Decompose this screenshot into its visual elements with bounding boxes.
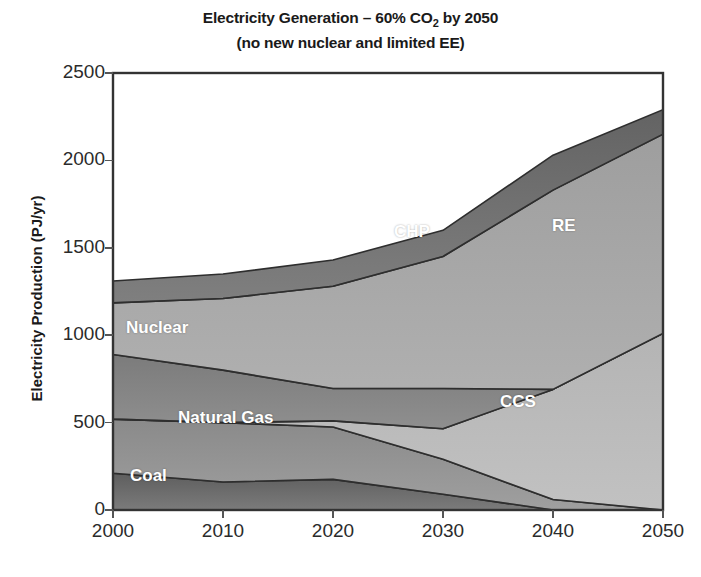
x-tick-label: 2000 <box>68 520 158 542</box>
x-tick-mark <box>332 510 334 518</box>
area-label-chp: CHP <box>394 222 430 242</box>
x-tick-mark <box>552 510 554 518</box>
y-tick-label: 2500 <box>49 61 105 83</box>
y-tick-label: 1500 <box>49 236 105 258</box>
area-label-ccs: CCS <box>500 392 536 412</box>
y-tick-mark <box>105 72 113 74</box>
y-tick-label: 1000 <box>49 323 105 345</box>
stacked-areas <box>113 110 663 510</box>
chart-figure: Electricity Generation – 60% CO2 by 2050… <box>0 0 701 577</box>
y-tick-label: 500 <box>49 411 105 433</box>
area-label-coal: Coal <box>130 466 167 486</box>
y-tick-label: 2000 <box>49 148 105 170</box>
x-tick-mark <box>222 510 224 518</box>
x-tick-label: 2020 <box>288 520 378 542</box>
x-tick-label: 2030 <box>398 520 488 542</box>
y-tick-mark <box>105 422 113 424</box>
area-label-nuclear: Nuclear <box>126 318 188 338</box>
y-tick-mark <box>105 160 113 162</box>
x-tick-label: 2050 <box>618 520 701 542</box>
x-tick-label: 2010 <box>178 520 268 542</box>
x-tick-mark <box>662 510 664 518</box>
area-label-re: RE <box>552 216 576 236</box>
y-tick-label: 0 <box>49 498 105 520</box>
y-tick-mark <box>105 334 113 336</box>
plot-canvas <box>0 0 701 577</box>
x-tick-label: 2040 <box>508 520 598 542</box>
y-tick-mark <box>105 247 113 249</box>
x-tick-mark <box>442 510 444 518</box>
x-tick-mark <box>112 510 114 518</box>
area-label-natural-gas: Natural Gas <box>178 408 273 428</box>
